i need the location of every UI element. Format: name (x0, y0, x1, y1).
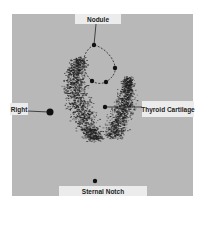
uptake-speck (78, 63, 80, 64)
uptake-speck (115, 128, 117, 129)
uptake-speck (115, 122, 117, 123)
uptake-speck (124, 130, 126, 131)
uptake-speck (119, 102, 121, 103)
uptake-speck (76, 65, 77, 66)
uptake-speck (119, 131, 121, 132)
uptake-speck (91, 123, 93, 124)
uptake-speck (89, 118, 91, 119)
uptake-speck (108, 135, 110, 136)
uptake-speck (84, 101, 86, 102)
uptake-speck (72, 104, 74, 105)
uptake-speck (83, 90, 85, 91)
uptake-speck (68, 93, 70, 94)
uptake-speck (79, 115, 80, 116)
uptake-speck (129, 109, 131, 110)
thyroid-cartilage-marker (103, 105, 107, 109)
uptake-speck (96, 130, 98, 131)
uptake-speck (71, 63, 73, 64)
uptake-speck (117, 120, 119, 121)
uptake-speck (80, 65, 81, 66)
uptake-speck (110, 126, 112, 127)
uptake-speck (95, 132, 96, 133)
uptake-speck (81, 123, 83, 124)
uptake-speck (118, 134, 120, 135)
uptake-speck (82, 137, 84, 138)
uptake-speck (75, 98, 77, 99)
uptake-speck (124, 111, 126, 112)
uptake-speck (116, 125, 118, 126)
uptake-speck (125, 87, 127, 88)
uptake-speck (121, 124, 123, 125)
uptake-speck (71, 93, 72, 94)
uptake-speck (130, 77, 131, 78)
uptake-speck (78, 99, 80, 100)
uptake-speck (116, 101, 117, 102)
uptake-speck (69, 69, 71, 70)
uptake-speck (109, 134, 110, 135)
uptake-speck (121, 108, 122, 109)
uptake-speck (98, 136, 100, 137)
uptake-speck (77, 93, 78, 94)
uptake-speck (112, 129, 113, 130)
uptake-speck (93, 138, 94, 139)
uptake-speck (76, 107, 77, 108)
uptake-speck (120, 121, 121, 122)
uptake-speck (94, 139, 95, 140)
uptake-speck (92, 107, 94, 108)
uptake-speck (131, 96, 132, 97)
uptake-speck (118, 109, 120, 110)
uptake-speck (127, 130, 129, 131)
uptake-speck (81, 126, 82, 127)
uptake-speck (130, 84, 132, 85)
uptake-speck (90, 114, 92, 115)
uptake-speck (102, 138, 103, 139)
uptake-speck (66, 71, 68, 72)
uptake-speck (100, 133, 101, 134)
uptake-speck (120, 94, 121, 95)
uptake-speck (116, 130, 117, 131)
uptake-speck (76, 60, 78, 61)
uptake-speck (77, 118, 78, 119)
uptake-speck (84, 104, 85, 105)
uptake-speck (84, 81, 85, 82)
uptake-speck (78, 79, 80, 80)
uptake-speck (117, 93, 118, 94)
uptake-speck (125, 104, 126, 105)
uptake-speck (83, 121, 84, 122)
uptake-speck (78, 124, 79, 125)
uptake-speck (84, 121, 85, 122)
uptake-speck (106, 116, 107, 117)
uptake-speck (68, 96, 69, 97)
uptake-speck (115, 115, 116, 116)
uptake-speck (83, 103, 84, 104)
uptake-speck (108, 128, 109, 129)
uptake-speck (127, 88, 129, 89)
uptake-speck (130, 111, 131, 112)
uptake-speck (125, 129, 126, 130)
uptake-speck (65, 105, 66, 106)
uptake-speck (81, 108, 82, 109)
uptake-speck (78, 116, 79, 117)
uptake-speck (81, 100, 82, 101)
uptake-speck (130, 117, 131, 118)
uptake-speck (126, 104, 127, 105)
uptake-speck (82, 114, 84, 115)
uptake-speck (89, 105, 91, 106)
right-side-marker (47, 109, 54, 116)
uptake-speck (87, 116, 88, 117)
uptake-speck (127, 91, 128, 92)
uptake-speck (126, 96, 127, 97)
uptake-speck (86, 85, 88, 86)
uptake-speck (123, 116, 124, 117)
uptake-speck (85, 120, 86, 121)
uptake-speck (72, 91, 73, 92)
uptake-speck (113, 131, 115, 132)
uptake-speck (84, 91, 86, 92)
uptake-speck (120, 97, 121, 98)
sternal-notch-marker (93, 179, 97, 183)
uptake-speck (76, 110, 78, 111)
uptake-speck (84, 111, 85, 112)
uptake-speck (128, 101, 130, 102)
uptake-speck (87, 127, 89, 128)
uptake-speck (121, 81, 123, 82)
